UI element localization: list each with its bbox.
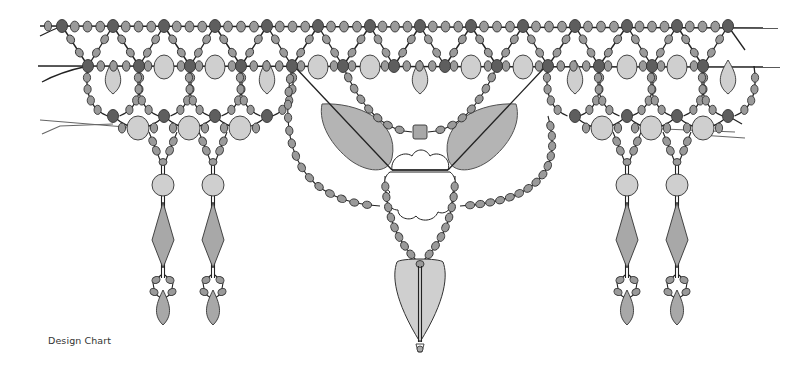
- seed-bead-icon: [584, 21, 593, 32]
- seed-bead-icon: [483, 47, 494, 59]
- dark-node-bead-icon: [108, 20, 119, 33]
- seed-bead-icon: [336, 194, 347, 204]
- dark-node-bead-icon: [210, 20, 221, 33]
- seed-bead-icon: [270, 34, 281, 46]
- seed-bead-icon: [504, 192, 515, 202]
- seed-bead-icon: [680, 34, 691, 46]
- seed-bead-icon: [638, 105, 645, 114]
- seed-bead-icon: [389, 222, 399, 233]
- seed-bead-icon: [578, 34, 589, 46]
- seed-bead-icon: [295, 47, 306, 59]
- oval-bead-icon: [360, 55, 380, 79]
- seed-bead-icon: [220, 123, 227, 133]
- seed-bead-icon: [250, 61, 258, 71]
- seed-bead-icon: [448, 47, 459, 59]
- seed-bead-icon: [635, 21, 644, 32]
- oval-bead-icon: [308, 55, 328, 79]
- seed-bead-icon: [74, 47, 85, 59]
- seed-bead-icon: [284, 113, 292, 123]
- round-accent-bead-icon: [616, 174, 638, 196]
- seed-bead-icon: [709, 105, 716, 114]
- seed-bead-icon: [126, 105, 133, 114]
- seed-bead-icon: [134, 73, 141, 82]
- seed-bead-icon: [394, 231, 405, 243]
- dark-node-bead-icon: [313, 20, 324, 33]
- seed-bead-icon: [416, 61, 424, 71]
- leaf-pendant-icon: [395, 259, 445, 342]
- seed-bead-icon: [150, 34, 161, 46]
- dark-node-bead-icon: [672, 20, 683, 33]
- seed-bead-icon: [301, 21, 310, 32]
- seed-bead-icon: [348, 61, 356, 71]
- seed-bead-icon: [177, 105, 184, 114]
- seed-bead-icon: [714, 34, 725, 46]
- seed-bead-icon: [628, 145, 639, 157]
- seed-bead-icon: [321, 34, 332, 46]
- seed-bead-icon: [96, 21, 105, 32]
- seed-bead-icon: [543, 160, 553, 171]
- seed-bead-icon: [284, 100, 291, 109]
- seed-bead-icon: [611, 136, 622, 148]
- round-accent-bead-icon: [178, 116, 200, 140]
- seed-bead-icon: [135, 85, 142, 94]
- seed-bead-icon: [546, 121, 555, 132]
- seed-bead-icon: [134, 21, 143, 32]
- seed-bead-icon: [151, 145, 162, 157]
- teardrop-pendant-icon: [620, 290, 633, 325]
- seed-bead-icon: [313, 181, 325, 192]
- seed-bead-icon: [582, 61, 590, 71]
- seed-bead-icon: [218, 34, 229, 46]
- teardrop-pendant-icon: [206, 290, 219, 325]
- seed-bead-icon: [296, 162, 307, 174]
- seed-bead-icon: [240, 96, 247, 105]
- seed-bead-icon: [594, 73, 601, 82]
- seed-bead-icon: [196, 105, 203, 114]
- seed-bead-icon: [690, 61, 698, 71]
- seed-bead-icon: [329, 47, 340, 59]
- seed-bead-icon: [228, 61, 236, 71]
- seed-bead-icon: [353, 21, 362, 32]
- seed-bead-icon: [535, 61, 543, 71]
- seed-bead-icon: [474, 34, 485, 46]
- seed-bead-icon: [545, 21, 554, 32]
- seed-bead-icon: [423, 34, 434, 46]
- seed-bead-icon: [440, 222, 450, 233]
- dark-node-bead-icon: [236, 60, 247, 73]
- seed-bead-icon: [263, 61, 271, 71]
- seed-bead-icon: [699, 85, 706, 94]
- round-accent-bead-icon: [229, 116, 251, 140]
- seed-bead-icon: [689, 47, 700, 59]
- seed-bead-icon: [651, 96, 658, 105]
- seed-bead-icon: [355, 93, 366, 105]
- seed-bead-icon: [493, 21, 502, 32]
- seed-bead-icon: [378, 21, 387, 32]
- seed-bead-icon: [741, 105, 748, 114]
- seed-bead-icon: [665, 145, 676, 157]
- round-accent-bead-icon: [591, 116, 613, 140]
- seed-bead-icon: [606, 105, 613, 114]
- seed-bead-icon: [457, 34, 468, 46]
- seed-bead-icon: [509, 34, 520, 46]
- accent-beads-layer: [105, 55, 735, 342]
- seed-bead-icon: [287, 138, 296, 149]
- seed-bead-icon: [44, 21, 51, 31]
- seed-bead-icon: [349, 198, 359, 207]
- seed-bead-icon: [236, 73, 243, 82]
- dark-node-bead-icon: [543, 60, 554, 73]
- seed-bead-icon: [475, 200, 485, 208]
- seed-bead-icon: [661, 136, 672, 148]
- seed-bead-icon: [343, 72, 353, 83]
- seed-bead-icon: [450, 61, 458, 71]
- seed-bead-icon: [394, 125, 405, 134]
- seed-bead-icon: [197, 136, 208, 148]
- seed-bead-icon: [502, 61, 510, 71]
- bicone-bead-icon: [202, 202, 224, 268]
- seed-bead-icon: [706, 47, 717, 59]
- seed-bead-icon: [355, 34, 366, 46]
- dark-node-bead-icon: [262, 20, 273, 33]
- seed-bead-icon: [685, 21, 694, 32]
- seed-bead-icon: [247, 105, 254, 114]
- seed-bead-icon: [304, 34, 315, 46]
- seed-bead-icon: [547, 96, 554, 105]
- seed-bead-icon: [201, 123, 208, 133]
